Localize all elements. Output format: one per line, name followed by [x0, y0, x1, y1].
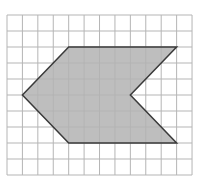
grid-diagram [0, 0, 202, 187]
